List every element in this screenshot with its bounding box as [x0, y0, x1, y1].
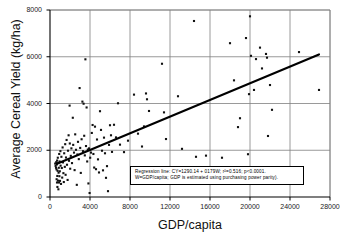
- data-point: [71, 162, 73, 164]
- data-point: [298, 51, 300, 53]
- data-point: [163, 111, 165, 113]
- data-point: [205, 155, 207, 157]
- data-point: [61, 177, 63, 179]
- data-point: [60, 165, 62, 167]
- data-point: [79, 87, 81, 89]
- y-tick-label: 8000: [12, 6, 42, 13]
- data-point: [83, 135, 85, 137]
- data-point: [67, 179, 69, 181]
- regression-line: [57, 54, 319, 163]
- data-point: [92, 124, 94, 126]
- data-point: [65, 174, 67, 176]
- data-point: [141, 145, 143, 147]
- data-point: [72, 117, 74, 119]
- data-point: [69, 142, 71, 144]
- data-point: [100, 129, 102, 131]
- data-point: [165, 138, 167, 140]
- data-point: [80, 172, 82, 174]
- data-point: [91, 132, 93, 134]
- data-point: [104, 152, 106, 154]
- data-point: [133, 94, 135, 96]
- data-point: [59, 170, 61, 172]
- data-point: [245, 37, 247, 39]
- data-point: [57, 157, 59, 159]
- data-point: [98, 171, 100, 173]
- data-point: [59, 180, 61, 182]
- regression-annotation-line-2: W=GDP/capita; GDP is estimated using pur…: [135, 175, 300, 181]
- data-point: [106, 165, 108, 167]
- data-point: [84, 154, 86, 156]
- data-point: [239, 117, 241, 119]
- data-point: [148, 110, 150, 112]
- data-point: [89, 157, 91, 159]
- data-point: [66, 164, 68, 166]
- data-point: [255, 58, 257, 60]
- data-point: [72, 144, 74, 146]
- data-point: [99, 110, 101, 112]
- data-point: [269, 84, 271, 86]
- data-point: [221, 157, 223, 159]
- data-point: [67, 150, 69, 152]
- data-point: [65, 156, 67, 158]
- data-point: [76, 184, 78, 186]
- x-tick-label: 12000: [155, 203, 185, 210]
- data-point: [57, 170, 59, 172]
- x-tick-label: 0: [35, 203, 65, 210]
- data-point: [94, 126, 96, 128]
- data-point: [56, 159, 58, 161]
- data-point: [265, 53, 267, 55]
- data-point: [89, 192, 91, 194]
- data-point: [105, 177, 107, 179]
- data-point: [193, 20, 195, 22]
- data-point: [119, 144, 121, 146]
- data-point: [86, 106, 88, 108]
- data-point: [177, 95, 179, 97]
- data-point: [249, 15, 251, 17]
- data-point: [195, 156, 197, 158]
- data-point: [123, 151, 125, 153]
- data-point: [66, 139, 68, 141]
- data-point: [79, 147, 81, 149]
- data-point: [73, 152, 75, 154]
- data-point: [70, 155, 72, 157]
- data-point: [113, 124, 115, 126]
- data-point: [248, 93, 250, 95]
- data-point: [93, 167, 95, 169]
- data-point: [62, 146, 64, 148]
- data-point: [81, 138, 83, 140]
- data-point: [111, 151, 113, 153]
- data-point: [233, 79, 235, 81]
- data-point: [59, 150, 61, 152]
- data-point: [266, 57, 268, 59]
- data-point: [81, 101, 83, 103]
- data-point: [70, 147, 72, 149]
- data-point: [69, 168, 71, 170]
- data-point: [62, 172, 64, 174]
- data-point: [261, 67, 263, 69]
- data-point: [74, 133, 76, 135]
- data-point: [57, 180, 59, 182]
- data-point: [61, 167, 63, 169]
- data-point: [271, 109, 273, 111]
- data-point: [83, 103, 85, 105]
- data-point: [161, 63, 163, 65]
- data-point: [90, 152, 92, 154]
- x-tick-label: 16000: [195, 203, 225, 210]
- x-tick-label: 8000: [115, 203, 145, 210]
- data-point: [78, 158, 80, 160]
- data-point: [181, 148, 183, 150]
- data-point: [63, 152, 65, 154]
- data-point: [85, 145, 87, 147]
- data-point: [69, 105, 71, 107]
- data-point: [60, 156, 62, 158]
- data-point: [146, 98, 148, 100]
- data-point: [110, 134, 112, 136]
- data-point: [229, 42, 231, 44]
- data-point: [74, 169, 76, 171]
- data-point: [68, 134, 70, 136]
- data-point: [95, 168, 97, 170]
- data-point: [58, 167, 60, 169]
- data-point: [56, 181, 58, 183]
- data-point: [92, 153, 94, 155]
- data-point: [117, 102, 119, 104]
